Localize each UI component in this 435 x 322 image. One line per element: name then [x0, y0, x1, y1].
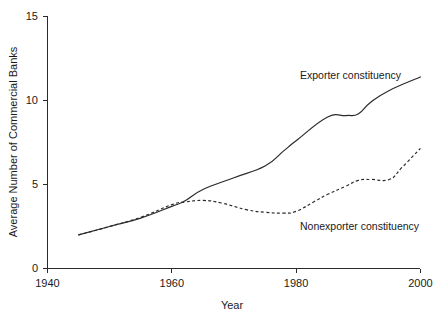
- chart-figure: 15 10 5 0 1940 1960 1980 2000 Year Avera…: [0, 0, 435, 322]
- x-axis-title: Year: [221, 299, 244, 311]
- y-tick-label-0: 0: [32, 262, 38, 274]
- x-tick-label-1940: 1940: [35, 277, 59, 289]
- series-annotation-exporter: Exporter constituency: [300, 69, 402, 81]
- y-tick-label-5: 5: [32, 178, 38, 190]
- y-tick-label-10: 10: [26, 94, 38, 106]
- x-tick-label-1980: 1980: [284, 277, 308, 289]
- series-annotation-nonexporter: Nonexporter constituency: [300, 220, 420, 232]
- line-chart-canvas: 15 10 5 0 1940 1960 1980 2000 Year Avera…: [0, 0, 435, 322]
- x-tick-label-2000: 2000: [408, 277, 432, 289]
- x-tick-label-1960: 1960: [160, 277, 184, 289]
- y-tick-label-15: 15: [26, 10, 38, 22]
- y-axis-title: Average Number of Commercial Banks: [7, 46, 19, 237]
- chart-background: [0, 0, 435, 322]
